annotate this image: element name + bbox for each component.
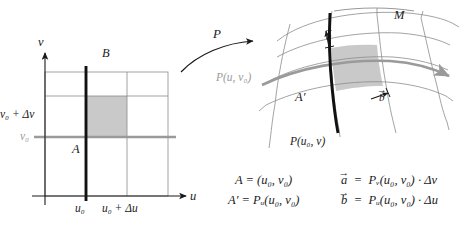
- mapping-label-P: P: [213, 27, 221, 40]
- vector-arrow-a-eq: →: [339, 168, 350, 179]
- x-tick-u0-plus-du: u₀ + Δu: [102, 203, 138, 215]
- point-label-B: B: [102, 47, 110, 60]
- figure-canvas: v u v₀ + Δv v₀ u₀ u₀ + Δu B A P M P(u, v…: [0, 0, 475, 230]
- y-tick-v0-plus-dv: v₀ + Δv: [0, 109, 34, 121]
- vector-arrow-b: →: [377, 86, 386, 95]
- vector-a-label: →a: [326, 31, 332, 42]
- vector-arrow-b-eq: →: [339, 188, 350, 199]
- axis-label-v: v: [38, 36, 44, 49]
- equation-vector-b: →b = Pᵤ(u₀, v₀) · Δu: [341, 194, 438, 207]
- equation-A: A = (u₀, v₀): [235, 174, 292, 187]
- surface-label-M: M: [394, 9, 404, 22]
- vector-arrow-a: →: [324, 25, 333, 34]
- equals-sign-b: =: [354, 193, 361, 207]
- vector-b-label: →b: [379, 92, 385, 103]
- v-parameter-curve-label: P(u₀, v): [290, 136, 325, 148]
- left-shaded-cell: [86, 96, 127, 137]
- equation-vector-a-rhs: Pᵥ(u₀, v₀) · Δv: [369, 173, 437, 187]
- equals-sign-a: =: [354, 173, 361, 187]
- y-tick-v0: v₀: [20, 131, 29, 143]
- equation-vector-a: →a = Pᵥ(u₀, v₀) · Δv: [341, 174, 437, 187]
- equation-A-prime: A′ = Pᵤ(u₀, v₀): [228, 194, 299, 207]
- point-label-A-prime: A′: [295, 91, 305, 104]
- axis-label-u: u: [190, 190, 196, 203]
- u-parameter-curve-label: P(u, v₀): [216, 72, 251, 84]
- x-tick-u0: u₀: [75, 203, 85, 215]
- point-label-A: A: [72, 143, 80, 156]
- mapping-arrow-curve: [181, 41, 253, 72]
- equation-vector-b-rhs: Pᵤ(u₀, v₀) · Δu: [369, 193, 438, 207]
